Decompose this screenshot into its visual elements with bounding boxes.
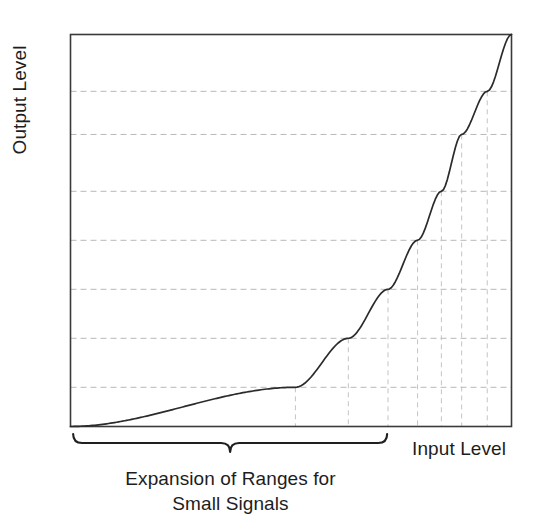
bracket-caption: Expansion of Ranges for Small Signals <box>73 466 388 516</box>
x-axis-label: Input Level <box>412 438 506 460</box>
bracket-caption-line-1: Expansion of Ranges for <box>73 466 388 491</box>
horizontal-gridlines <box>71 91 512 387</box>
vertical-droplines <box>295 91 487 426</box>
y-axis-label-text: Output Level <box>9 46 31 155</box>
transfer-curve-line <box>71 35 512 427</box>
y-axis-label: Output Level <box>0 0 40 200</box>
plot-frame <box>71 35 512 427</box>
range-bracket <box>73 434 387 452</box>
bracket-caption-line-2: Small Signals <box>73 491 388 516</box>
